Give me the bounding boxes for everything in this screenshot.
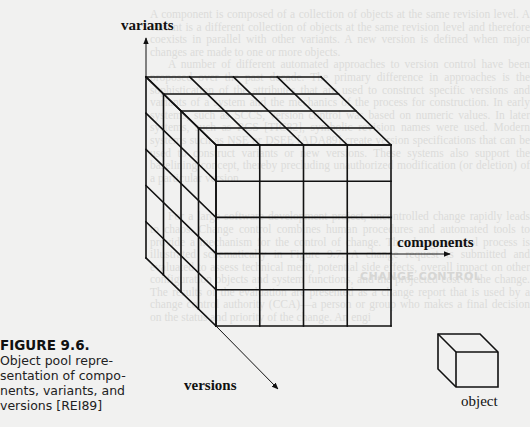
caption-line: Object pool repre-	[0, 353, 130, 368]
object-legend-cube	[438, 334, 498, 387]
caption-line: nents, variants, and	[0, 383, 130, 398]
variants-axis-label: variants	[121, 17, 174, 34]
components-axis-label: components	[397, 234, 474, 251]
object-legend-label: object	[461, 393, 498, 410]
figure-caption: FIGURE 9.6. Object pool repre- sentation…	[0, 338, 130, 413]
figure-number: FIGURE 9.6.	[0, 338, 130, 353]
caption-line: sentation of compo-	[0, 368, 130, 383]
versions-axis-label: versions	[184, 377, 237, 394]
caption-line: versions [REI89]	[0, 398, 130, 413]
